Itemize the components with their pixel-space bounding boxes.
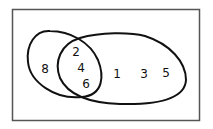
- element-8: 8: [41, 62, 49, 76]
- element-3: 3: [140, 67, 148, 81]
- left-set-ellipse: [28, 31, 102, 97]
- element-4: 4: [77, 61, 85, 75]
- element-6: 6: [82, 77, 90, 91]
- element-2: 2: [72, 45, 80, 59]
- venn-diagram: 8 2 4 6 1 3 5: [0, 0, 213, 129]
- element-1: 1: [113, 67, 121, 81]
- element-5: 5: [162, 66, 170, 80]
